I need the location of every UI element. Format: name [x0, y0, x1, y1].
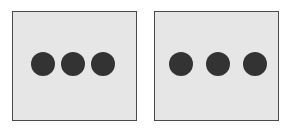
dot-1 [169, 52, 193, 76]
dot-2 [61, 52, 85, 76]
comparison-figure [0, 0, 290, 134]
dot-2 [206, 52, 230, 76]
right-panel [154, 11, 279, 121]
left-panel [12, 11, 137, 121]
dot-1 [31, 52, 55, 76]
dot-3 [91, 52, 115, 76]
dot-3 [243, 52, 267, 76]
